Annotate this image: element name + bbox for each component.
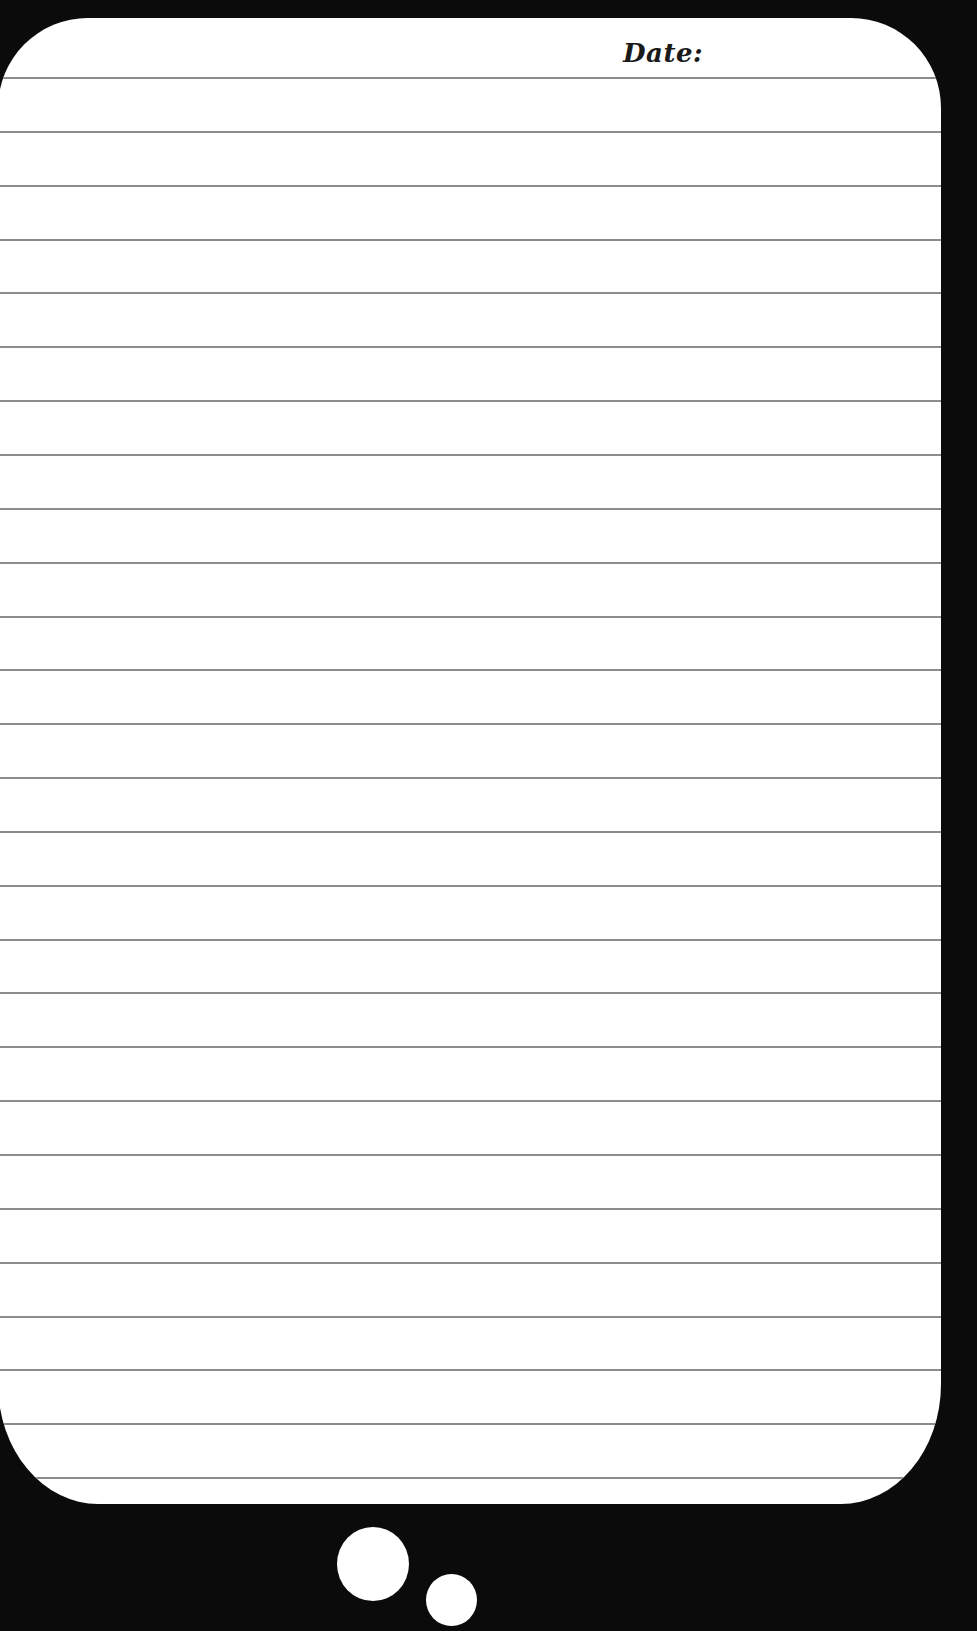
thought-bubble-large-icon	[337, 1527, 409, 1601]
ruled-line	[0, 939, 941, 941]
ruled-line	[0, 1046, 941, 1048]
ruled-line	[0, 239, 941, 241]
ruled-line	[0, 346, 941, 348]
ruled-line	[0, 1316, 941, 1318]
ruled-line	[0, 508, 941, 510]
ruled-line	[0, 669, 941, 671]
ruled-line	[0, 131, 941, 133]
ruled-line	[0, 1154, 941, 1156]
ruled-line	[0, 1369, 941, 1371]
ruled-line	[0, 77, 941, 79]
date-label: Date:	[623, 38, 703, 68]
ruled-line	[0, 777, 941, 779]
notepad-card: Date:	[0, 18, 941, 1504]
ruled-line	[0, 992, 941, 994]
ruled-line	[0, 723, 941, 725]
ruled-line	[0, 616, 941, 618]
ruled-line	[0, 185, 941, 187]
ruled-line	[0, 562, 941, 564]
ruled-line	[0, 885, 941, 887]
ruled-line	[0, 454, 941, 456]
ruled-line	[0, 292, 941, 294]
ruled-line	[0, 1262, 941, 1264]
ruled-line	[0, 1208, 941, 1210]
ruled-line	[0, 1477, 941, 1479]
ruled-line	[0, 1100, 941, 1102]
ruled-line	[0, 831, 941, 833]
ruled-line	[0, 400, 941, 402]
thought-bubble-small-icon	[426, 1574, 477, 1626]
ruled-line	[0, 1423, 941, 1425]
